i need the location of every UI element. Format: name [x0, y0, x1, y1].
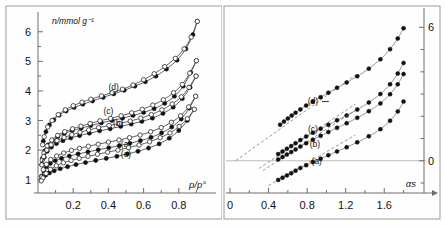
- desorption-point: [178, 114, 182, 118]
- curve-label: (c): [103, 106, 113, 116]
- desorption-point: [160, 108, 164, 112]
- data-point: [285, 153, 289, 157]
- desorption-point: [182, 47, 186, 51]
- data-point: [326, 123, 330, 127]
- desorption-point: [159, 125, 163, 129]
- desorption-point: [116, 148, 120, 152]
- x-tick-label: 0.6: [136, 199, 151, 211]
- data-point: [355, 116, 359, 120]
- x-tick-label: 0.8: [171, 199, 186, 211]
- desorption-point: [70, 127, 74, 131]
- data-point: [378, 101, 382, 105]
- desorption-point: [131, 83, 135, 87]
- data-point: [335, 126, 339, 130]
- data-point: [396, 82, 400, 86]
- data-point: [326, 91, 330, 95]
- desorption-point: [106, 150, 110, 154]
- x-tick-label: 0.2: [66, 199, 81, 211]
- left-isotherm-panel: 1234560.20.40.60.8n/mmol g⁻¹p/p°(d)(c)(b…: [0, 0, 222, 227]
- data-point: [282, 120, 286, 124]
- desorption-point: [54, 164, 58, 168]
- desorption-point: [40, 163, 44, 167]
- data-point: [298, 138, 302, 142]
- x-tick-label: 0.4: [101, 199, 116, 211]
- desorption-point: [141, 77, 145, 81]
- desorption-point: [194, 59, 198, 63]
- adsorption-point: [138, 139, 142, 143]
- x-axis-label: αs: [406, 178, 416, 189]
- data-point: [304, 141, 308, 145]
- data-point: [285, 173, 289, 177]
- data-point: [285, 147, 289, 151]
- desorption-point: [69, 148, 73, 152]
- desorption-point: [86, 144, 90, 148]
- desorption-point: [194, 74, 198, 78]
- y-tick-label: 0: [428, 155, 434, 167]
- desorption-point: [44, 171, 48, 175]
- desorption-point: [151, 103, 155, 107]
- desorption-point: [63, 130, 67, 134]
- data-point: [367, 67, 371, 71]
- adsorption-point: [136, 149, 140, 153]
- desorption-point: [147, 140, 151, 144]
- curve-label: (d): [108, 82, 119, 92]
- adsorption-point: [83, 160, 87, 164]
- desorption-point: [140, 107, 144, 111]
- desorption-point: [70, 133, 74, 137]
- data-point: [289, 150, 293, 154]
- x-axis-label: p/p°: [188, 179, 206, 190]
- desorption-point: [98, 119, 102, 123]
- data-point: [276, 152, 280, 156]
- adsorption-point: [44, 130, 48, 134]
- desorption-point: [79, 124, 83, 128]
- data-point: [367, 109, 371, 113]
- data-point: [388, 119, 392, 123]
- curve-label: (a): [312, 156, 323, 166]
- curve-label: (e): [121, 149, 132, 159]
- x-tick-label: 0.8: [299, 199, 314, 211]
- desorption-point: [195, 19, 199, 23]
- desorption-point: [169, 120, 173, 124]
- data-point: [402, 100, 406, 104]
- desorption-point: [86, 154, 90, 158]
- desorption-point: [179, 95, 183, 99]
- desorption-point: [50, 138, 54, 142]
- y-tick-label: 2: [25, 144, 31, 156]
- desorption-point: [49, 143, 53, 147]
- data-point: [326, 153, 330, 157]
- data-point: [289, 144, 293, 148]
- data-point: [294, 147, 298, 151]
- desorption-point: [69, 158, 73, 162]
- desorption-point: [86, 128, 90, 132]
- desorption-point: [56, 112, 60, 116]
- x-tick-label: 1.6: [377, 199, 392, 211]
- data-point: [402, 72, 406, 76]
- x-tick-label: 0: [227, 199, 233, 211]
- adsorption-point: [157, 142, 161, 146]
- desorption-point: [40, 143, 44, 147]
- adsorption-point: [65, 165, 69, 169]
- y-tick-label: 4: [25, 85, 31, 97]
- data-point: [345, 121, 349, 125]
- desorption-point: [152, 72, 156, 76]
- desorption-point: [106, 140, 110, 144]
- adsorption-point: [177, 128, 181, 132]
- data-point: [290, 114, 294, 118]
- data-point: [335, 86, 339, 90]
- desorption-point: [62, 135, 66, 139]
- data-point: [304, 163, 308, 167]
- data-point: [388, 92, 392, 96]
- desorption-point: [168, 131, 172, 135]
- figure-container: 1234560.20.40.60.8n/mmol g⁻¹p/p°(d)(c)(b…: [0, 0, 445, 227]
- desorption-point: [88, 121, 92, 125]
- desorption-point: [170, 102, 174, 106]
- desorption-point: [149, 112, 153, 116]
- desorption-point: [78, 130, 82, 134]
- desorption-point: [48, 167, 52, 171]
- adsorption-point: [86, 150, 90, 154]
- data-point: [345, 80, 349, 84]
- x-tick-label: 0.4: [261, 199, 276, 211]
- data-point: [402, 61, 406, 65]
- data-point: [298, 145, 302, 149]
- desorption-point: [161, 98, 165, 102]
